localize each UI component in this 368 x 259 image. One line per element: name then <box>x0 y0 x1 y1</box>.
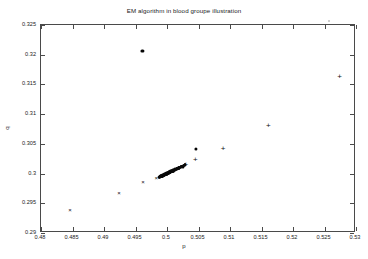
data-point-dot <box>166 173 169 176</box>
data-point-dot <box>174 169 176 171</box>
data-point-dot <box>166 171 169 174</box>
data-point-dot <box>177 167 179 169</box>
x-axis-tick-label: 0.485 <box>65 234 79 240</box>
data-point-dot <box>171 170 174 173</box>
data-point-dot <box>174 169 176 171</box>
y-axis-tick <box>41 174 45 175</box>
x-axis-tick <box>356 227 357 231</box>
x-axis-tick <box>104 227 105 231</box>
data-point-dot <box>165 172 168 175</box>
data-point-dot <box>161 175 164 178</box>
data-point-dot <box>173 169 175 171</box>
data-point-dot <box>172 170 175 173</box>
data-point-dot <box>183 164 185 166</box>
data-point-dot <box>178 167 180 169</box>
x-axis-tick <box>230 25 231 29</box>
data-point-dot <box>184 163 186 165</box>
data-point-dot <box>160 175 163 178</box>
data-point-dot <box>159 175 162 178</box>
x-axis-tick <box>325 227 326 231</box>
data-point-dot <box>170 170 173 173</box>
data-point-dot <box>163 174 166 177</box>
data-point-dot <box>169 171 172 174</box>
data-point-dot <box>167 172 170 175</box>
data-point-dot <box>172 169 175 172</box>
chart-title: EM algorithm in blood groupe illustratio… <box>0 7 368 14</box>
data-point-dot <box>176 168 178 170</box>
data-point-dot <box>171 169 174 172</box>
data-point-dot <box>169 170 172 173</box>
figure-container: EM algorithm in blood groupe illustratio… <box>0 0 368 259</box>
data-point-dot <box>171 170 174 173</box>
data-point-dot <box>175 168 177 170</box>
data-point-dot <box>183 164 186 167</box>
data-point-dot <box>159 175 162 178</box>
x-axis-tick <box>136 227 137 231</box>
data-point-dot <box>171 169 174 172</box>
y-axis-tick <box>350 144 354 145</box>
data-point-dot <box>160 175 163 178</box>
data-point-dot <box>163 173 166 176</box>
data-point-dot <box>177 166 180 169</box>
y-axis-tick <box>350 84 354 85</box>
data-point-dot <box>169 170 172 173</box>
data-point-dot <box>168 171 171 174</box>
x-axis-tick <box>104 25 105 29</box>
data-point-dot <box>171 169 174 172</box>
data-point-dot <box>194 147 197 150</box>
data-point-plus: + <box>221 145 226 153</box>
data-point-dot <box>162 174 165 177</box>
data-point-dot <box>184 164 186 166</box>
data-point-dot <box>177 168 179 170</box>
data-point-dot <box>163 173 166 176</box>
data-point-dot <box>159 176 162 179</box>
y-axis-tick <box>41 203 45 204</box>
data-point-dot <box>166 172 169 175</box>
x-axis-tick <box>167 227 168 231</box>
x-axis-tick-label: 0.51 <box>224 234 235 240</box>
data-point-plus: + <box>337 73 342 81</box>
data-point-dot <box>175 168 177 170</box>
x-axis-tick-label: 0.505 <box>191 234 205 240</box>
data-point-dot <box>165 172 168 175</box>
data-point-plus: + <box>266 122 271 130</box>
data-point-dot <box>159 174 162 177</box>
data-point-dot <box>180 165 182 167</box>
data-point-dot <box>169 171 172 174</box>
data-point-dot <box>165 173 168 176</box>
data-point-dot <box>168 171 171 174</box>
data-point-dot <box>181 165 183 167</box>
data-point-x: × <box>155 175 159 181</box>
x-axis-tick <box>73 227 74 231</box>
data-point-dot <box>171 169 174 172</box>
y-axis-tick-label: 0.315 <box>22 80 36 86</box>
data-point-dot <box>178 166 180 168</box>
x-axis-tick <box>293 25 294 29</box>
data-point-dot <box>166 172 169 175</box>
y-axis-tick <box>350 114 354 115</box>
data-point-x: × <box>117 190 121 196</box>
data-point-plus: + <box>193 156 198 164</box>
data-point-dot <box>141 49 144 52</box>
data-point-dot <box>160 175 163 178</box>
data-point-dot <box>162 174 165 177</box>
data-point-dot <box>163 173 166 176</box>
data-point-dot <box>162 173 165 176</box>
data-point-dot <box>179 166 181 168</box>
data-point-dot <box>175 167 178 170</box>
x-axis-label: p <box>0 243 368 249</box>
data-point-dot <box>172 168 175 171</box>
data-point-dot <box>169 170 172 173</box>
data-point-dot <box>169 170 172 173</box>
data-point-dot <box>175 168 177 170</box>
data-point-dot <box>174 168 176 170</box>
data-point-dot <box>176 167 179 170</box>
y-axis-tick-label: 0.3 <box>28 170 36 176</box>
data-point-dot <box>165 172 168 175</box>
data-point-dot <box>176 167 178 169</box>
data-point-dot <box>184 164 186 166</box>
data-point-dot <box>162 174 165 177</box>
data-point-dot <box>181 165 184 168</box>
data-point-dot <box>179 166 181 168</box>
x-axis-tick <box>356 25 357 29</box>
